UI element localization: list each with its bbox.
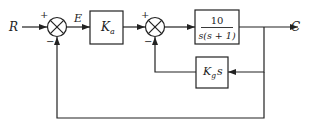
inner-feedback-return: [155, 37, 196, 72]
sum1-plus-sign: +: [40, 9, 48, 20]
block-diagram: R + − E Ka + − 10 s(s + 1) C Kgs: [0, 0, 310, 124]
plant-denominator: s(s + 1): [198, 30, 236, 41]
plant-numerator: 10: [211, 15, 224, 26]
error-signal-label: E: [73, 12, 82, 25]
sum1-minus-sign: −: [46, 36, 54, 47]
summing-junction-2: [146, 18, 165, 37]
outer-feedback-path: [57, 37, 264, 118]
summing-junction-1: [48, 18, 67, 37]
output-signal-label: C: [291, 20, 300, 34]
amplifier-gain-label: Ka: [100, 20, 115, 36]
tach-gain-label: Kgs: [202, 65, 223, 80]
sum2-plus-sign: +: [141, 9, 149, 20]
input-signal-label: R: [8, 20, 18, 34]
sum2-minus-sign: −: [144, 36, 152, 47]
